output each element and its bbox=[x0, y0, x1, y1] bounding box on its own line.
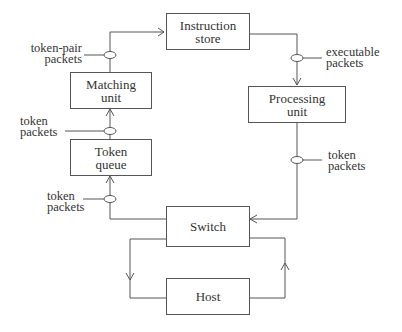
instruction-store-node: Instruction store bbox=[166, 13, 250, 50]
edge-switch-to-host bbox=[130, 239, 166, 298]
edge-matching-to-instruction bbox=[110, 32, 164, 72]
token-packets-matching-label: token packets bbox=[20, 116, 57, 138]
processing-unit-node: Processing unit bbox=[248, 86, 346, 123]
packet-tap-icon bbox=[291, 55, 303, 62]
node-label: Processing bbox=[269, 92, 325, 105]
node-label: unit bbox=[86, 91, 136, 104]
executable-packets-label: executable packets bbox=[326, 47, 379, 69]
node-label: Instruction bbox=[180, 19, 236, 32]
node-label: store bbox=[180, 32, 236, 45]
switch-node: Switch bbox=[166, 206, 250, 247]
token-pair-packets-label: token-pair packets bbox=[30, 43, 82, 65]
token-queue-node: Token queue bbox=[70, 139, 152, 176]
token-packets-queue-label: token packets bbox=[47, 191, 84, 213]
host-node: Host bbox=[166, 278, 250, 315]
node-label: Token bbox=[95, 145, 127, 158]
node-label: Matching bbox=[86, 78, 136, 91]
edge-host-to-switch bbox=[249, 238, 285, 298]
edge-switch-to-queue bbox=[110, 176, 166, 219]
node-label: unit bbox=[269, 105, 325, 118]
node-label: queue bbox=[95, 158, 127, 171]
edge-processing-to-switch bbox=[250, 122, 297, 219]
matching-unit-node: Matching unit bbox=[70, 72, 152, 109]
packet-tap-icon bbox=[104, 52, 116, 59]
packet-tap-icon bbox=[291, 157, 303, 164]
edge-instruction-to-processing bbox=[249, 34, 297, 85]
packet-tap-icon bbox=[104, 128, 116, 135]
node-label: Host bbox=[196, 290, 221, 303]
node-label: Switch bbox=[190, 220, 226, 233]
token-packets-processing-label: token packets bbox=[328, 150, 365, 172]
packet-tap-icon bbox=[104, 196, 116, 203]
